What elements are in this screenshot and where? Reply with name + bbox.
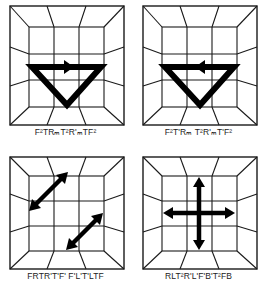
cube-panel-bottom-right: RLT²R'L'F'B'T²FB xyxy=(133,144,262,288)
cube-panel-top-right: F²T'Rₘ T²R'ₘT'F² xyxy=(133,0,262,144)
cube-face-grid xyxy=(133,0,262,144)
diagonal-double-arrow-icon xyxy=(29,172,68,211)
move-sequence-caption: F²TRₘT²R'ₘTF² xyxy=(0,127,131,137)
cube-face-grid xyxy=(0,0,131,144)
diagonal-double-arrow-icon xyxy=(66,213,103,250)
move-sequence-caption: F²T'Rₘ T²R'ₘT'F² xyxy=(133,127,262,137)
triangle-arrow-right-icon xyxy=(32,60,101,105)
cube-face-grid xyxy=(133,144,262,288)
move-sequence-caption: FRTR'T'F' F'L'T'LTF xyxy=(0,271,131,281)
cube-panel-bottom-left: FRTR'T'F' F'L'T'LTF xyxy=(0,144,131,288)
move-sequence-caption: RLT²R'L'F'B'T²FB xyxy=(133,271,262,281)
triangle-arrow-left-icon xyxy=(165,60,234,105)
cube-panel-top-left: F²TRₘT²R'ₘTF² xyxy=(0,0,131,144)
cube-face-grid xyxy=(0,144,131,288)
cross-four-arrows-icon xyxy=(163,177,235,250)
